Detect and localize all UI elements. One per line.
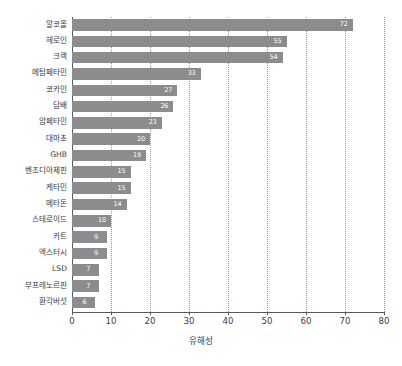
x-tick-mark — [72, 312, 73, 315]
x-tick-label: 30 — [184, 316, 195, 326]
bar — [72, 19, 353, 31]
category-label: 부프레노르핀 — [25, 280, 67, 292]
bar-row: 코카인27 — [72, 82, 384, 98]
bar — [72, 248, 107, 260]
bar-value-label: 9 — [94, 231, 98, 243]
gridline — [384, 17, 385, 312]
category-label: 알코올 — [46, 19, 67, 31]
bar-value-label: 9 — [94, 247, 98, 259]
x-tick-mark — [228, 312, 229, 315]
x-tick-mark — [306, 312, 307, 315]
x-tick-mark — [345, 312, 346, 315]
bar-row: GHB19 — [72, 148, 384, 164]
category-label: 코카인 — [46, 84, 67, 96]
category-label: LSD — [52, 263, 67, 275]
bar — [72, 36, 287, 48]
category-label: 메타돈 — [46, 198, 67, 210]
bar-value-label: 15 — [118, 165, 126, 177]
bar-row: 케타민15 — [72, 180, 384, 196]
bar-value-label: 19 — [133, 149, 141, 161]
x-tick-label: 0 — [69, 316, 74, 326]
category-label: 환각버섯 — [39, 296, 67, 308]
plot-area: 알코올72헤로인55크랙54메탐페타민33코카인27담배26암페타민23대마초2… — [72, 17, 384, 311]
bar-row: 크랙54 — [72, 50, 384, 66]
category-label: 스테로이드 — [32, 214, 67, 226]
harm-bar-chart: 알코올72헤로인55크랙54메탐페타민33코카인27담배26암페타민23대마초2… — [0, 0, 402, 366]
bar-value-label: 6 — [82, 296, 86, 308]
bar-value-label: 15 — [118, 182, 126, 194]
bar-row: 메타돈14 — [72, 197, 384, 213]
x-tick-label: 20 — [145, 316, 156, 326]
bar — [72, 85, 177, 97]
category-label: 담배 — [53, 100, 67, 112]
bar-row: 헤로인55 — [72, 33, 384, 49]
bar — [72, 101, 173, 113]
x-tick-mark — [384, 312, 385, 315]
bar-row: 스테로이드10 — [72, 213, 384, 229]
bar-value-label: 23 — [149, 116, 157, 128]
bar-value-label: 10 — [98, 214, 106, 226]
category-label: 메탐페타민 — [32, 67, 67, 79]
bar-row: 환각버섯6 — [72, 295, 384, 311]
bar — [72, 231, 107, 243]
bar-value-label: 27 — [164, 84, 172, 96]
category-label: 벤조디아제핀 — [25, 165, 67, 177]
bar — [72, 68, 201, 80]
category-label: 헤로인 — [46, 35, 67, 47]
category-label: 대마초 — [46, 133, 67, 145]
bar-value-label: 33 — [188, 67, 196, 79]
bar-value-label: 72 — [340, 18, 348, 30]
bar-row: 엑스터시9 — [72, 246, 384, 262]
bar-row: 대마초20 — [72, 131, 384, 147]
x-tick-label: 70 — [340, 316, 351, 326]
category-label: 엑스터시 — [39, 247, 67, 259]
x-tick-mark — [150, 312, 151, 315]
bar-value-label: 14 — [114, 198, 122, 210]
x-tick-label: 80 — [379, 316, 390, 326]
bar-value-label: 7 — [86, 263, 90, 275]
bar-value-label: 54 — [270, 51, 278, 63]
bar-row: 암페타민23 — [72, 115, 384, 131]
x-tick-mark — [267, 312, 268, 315]
x-tick-label: 60 — [301, 316, 312, 326]
bar-row: 담배26 — [72, 99, 384, 115]
bar-row: 벤조디아제핀15 — [72, 164, 384, 180]
bar-row: 메탐페타민33 — [72, 66, 384, 82]
x-tick-label: 50 — [262, 316, 273, 326]
bar-row: 카트9 — [72, 229, 384, 245]
category-label: 카트 — [53, 231, 67, 243]
x-tick-mark — [189, 312, 190, 315]
bar-rows: 알코올72헤로인55크랙54메탐페타민33코카인27담배26암페타민23대마초2… — [72, 17, 384, 311]
bar-value-label: 26 — [160, 100, 168, 112]
x-tick-label: 10 — [106, 316, 117, 326]
category-label: GHB — [50, 149, 67, 161]
category-label: 크랙 — [53, 51, 67, 63]
bar-value-label: 55 — [274, 35, 282, 47]
bar-row: LSD7 — [72, 262, 384, 278]
x-axis-title: 유해성 — [0, 334, 402, 346]
bar-value-label: 20 — [137, 133, 145, 145]
category-label: 암페타민 — [39, 116, 67, 128]
category-label: 케타민 — [46, 182, 67, 194]
bar-row: 부프레노르핀7 — [72, 278, 384, 294]
x-tick-mark — [111, 312, 112, 315]
bar-row: 알코올72 — [72, 17, 384, 33]
bar-value-label: 7 — [86, 280, 90, 292]
x-tick-label: 40 — [223, 316, 234, 326]
bar — [72, 52, 283, 64]
